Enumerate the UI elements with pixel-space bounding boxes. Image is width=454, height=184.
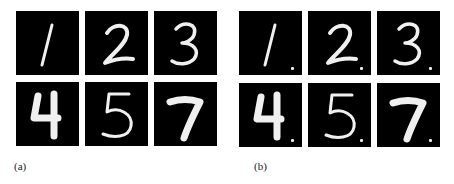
trigger-pixel [429,67,432,70]
trigger-pixel [360,139,363,142]
digit-3-image [377,11,440,75]
digit-5-image [308,83,371,147]
digit-1-image [239,11,302,75]
digit-tile-1-triggered [239,11,302,75]
digit-tile-4-triggered [239,83,302,147]
trigger-pixel [291,67,294,70]
digit-4-image [239,83,302,147]
digit-tile-2-triggered [308,11,371,75]
trigger-pixel [291,139,294,142]
digit-tile-5-triggered [308,83,371,147]
digit-tile-3-triggered [377,11,440,75]
digit-2-image [308,11,371,75]
trigger-pixel [360,67,363,70]
digit-tile-7-triggered [377,83,440,147]
trigger-pixel [429,139,432,142]
digit-7-image [377,83,440,147]
panel-b-label: (b) [254,160,267,172]
panel-b: (b) [0,0,454,184]
